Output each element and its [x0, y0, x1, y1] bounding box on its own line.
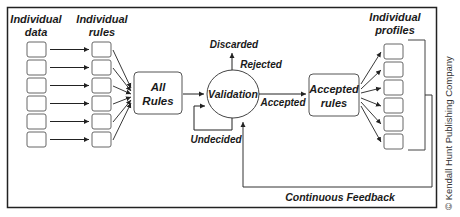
- discarded-label: Discarded: [206, 38, 262, 51]
- data-mining-rules-diagram: Individual data Individual rules Individ…: [0, 0, 460, 217]
- continuous-feedback-label: Continuous Feedback: [270, 191, 410, 204]
- accepted-label: Accepted: [258, 96, 308, 109]
- individual-data-label: Individual data: [10, 13, 62, 39]
- individual-profiles-label: Individual profiles: [364, 11, 426, 37]
- profiles-bracket: [408, 40, 425, 150]
- individual-rules-label: Individual rules: [74, 13, 130, 39]
- all-rules-label: All Rules: [134, 80, 182, 108]
- accepted-rules-label: Accepted rules: [306, 82, 362, 110]
- data-to-rules-arrows: [50, 50, 89, 140]
- undecided-label: Undecided: [186, 133, 246, 146]
- copyright-notice: © Kendall Hunt Publishing Company: [443, 56, 454, 210]
- individual-rule-boxes: [92, 42, 111, 147]
- rejected-label: Rejected: [236, 58, 286, 71]
- individual-data-boxes: [27, 42, 46, 147]
- rules-to-all-rules-arrows: [113, 50, 131, 140]
- individual-profile-boxes: [384, 44, 403, 149]
- validation-label: Validation: [206, 88, 260, 101]
- accepted-to-profiles-arrows: [361, 52, 381, 142]
